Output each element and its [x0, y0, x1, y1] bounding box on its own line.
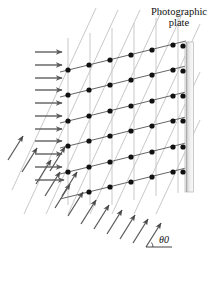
photographic-plate-label: Photographic plate [140, 6, 218, 28]
atom [86, 138, 91, 143]
atom [128, 128, 133, 133]
diffraction-spot [180, 118, 185, 123]
atom [86, 62, 91, 67]
atom [149, 47, 154, 52]
angle-arc [152, 243, 154, 248]
diffracted-arrow [120, 215, 135, 239]
diffraction-spot [180, 93, 185, 98]
atom [86, 189, 91, 194]
diffracted-arrow [107, 210, 122, 234]
atom [149, 123, 154, 128]
diffracted-arrow [45, 172, 60, 196]
plate-label-line2: plate [140, 17, 218, 28]
incident-beam-arrows [35, 52, 64, 180]
atom [65, 143, 70, 148]
diffracted-arrow [133, 219, 148, 243]
diffraction-spot [180, 144, 185, 149]
diffraction-diagram: θ0 [0, 0, 219, 288]
diffracted-arrow [62, 172, 77, 196]
diffracted-arrow [81, 200, 96, 224]
atom [65, 92, 70, 97]
atom [107, 133, 112, 138]
atom [86, 87, 91, 92]
diffracted-arrow [8, 136, 23, 160]
diffraction-spot [180, 43, 185, 48]
plate-label-line1: Photographic [151, 6, 207, 17]
atom [128, 77, 133, 82]
atom [170, 169, 175, 174]
lattice-lines-vertical [68, 14, 178, 205]
atom [128, 154, 133, 159]
atom [149, 174, 154, 179]
atom [149, 149, 154, 154]
atom [65, 67, 70, 72]
atom [149, 72, 154, 77]
diffracted-beam-arrows [8, 136, 161, 247]
atom [170, 67, 175, 72]
lattice-lines-diagonal-up [12, 8, 200, 214]
diffraction-spot [180, 169, 185, 174]
atom [107, 184, 112, 189]
atom [107, 108, 112, 113]
lattice-lines-rows [60, 41, 186, 199]
atom [65, 118, 70, 123]
atom [86, 164, 91, 169]
atom [86, 113, 91, 118]
atom [170, 118, 175, 123]
atom [128, 52, 133, 57]
atom [107, 57, 112, 62]
atom [107, 82, 112, 87]
photographic-plate [185, 42, 194, 192]
angle-label: θ0 [159, 234, 169, 245]
atom [170, 93, 175, 98]
diffraction-spot [180, 68, 185, 73]
lattice-grid [12, 8, 200, 214]
atom [65, 169, 70, 174]
atom [128, 103, 133, 108]
atom [128, 179, 133, 184]
atom [170, 144, 175, 149]
atom [107, 159, 112, 164]
atom [170, 42, 175, 47]
figure-canvas: θ0 Photographic plate [0, 0, 219, 288]
diffracted-arrow [94, 205, 109, 229]
atom [149, 98, 154, 103]
